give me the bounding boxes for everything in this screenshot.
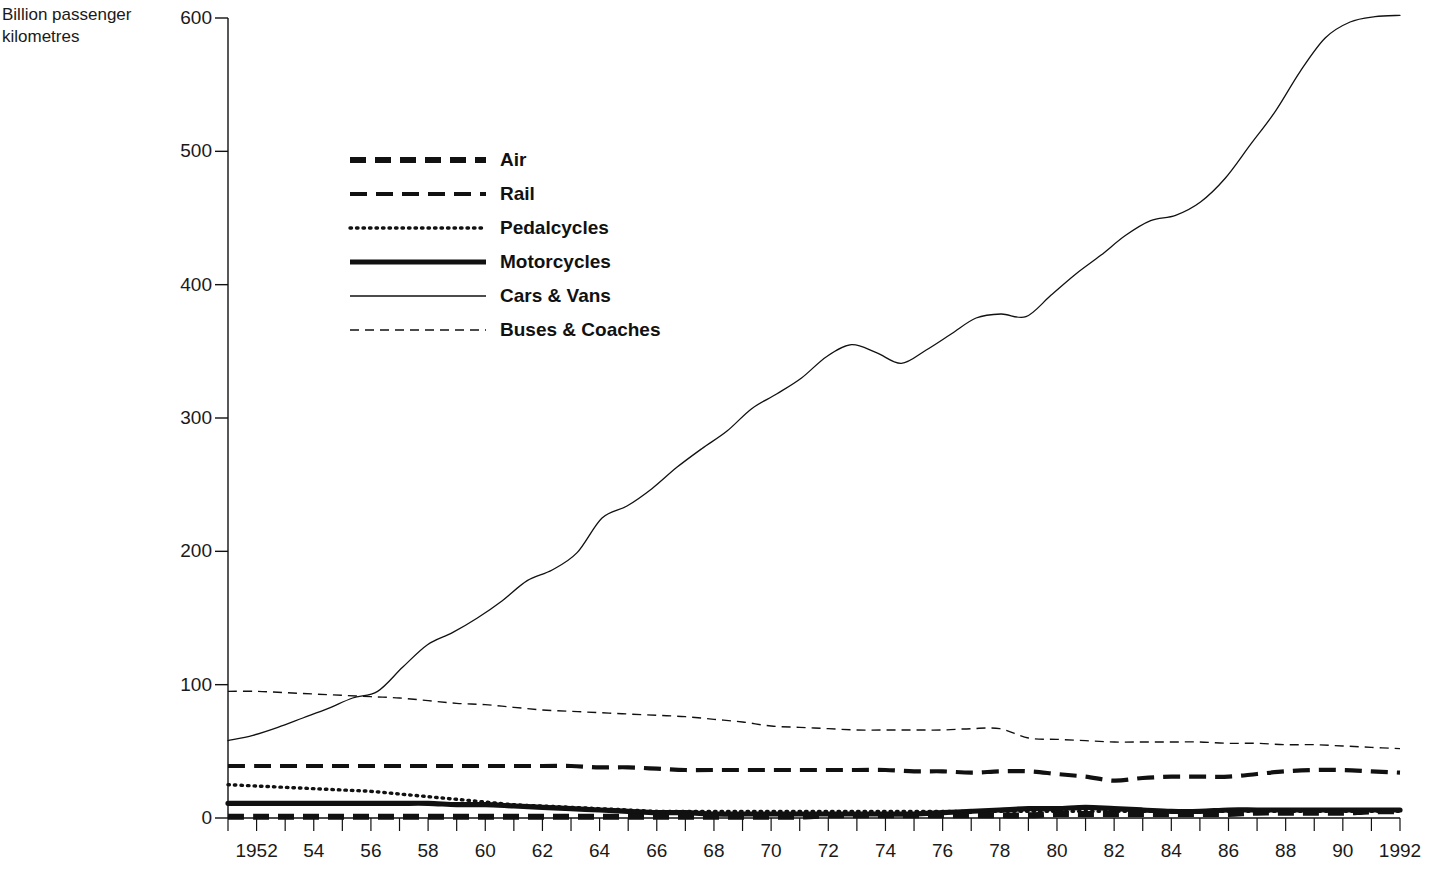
legend-item-cars[interactable]: Cars & Vans — [348, 279, 661, 313]
series-line-buses-coaches — [228, 691, 1400, 748]
legend-label-buses: Buses & Coaches — [500, 319, 661, 341]
x-axis-tick-label: 84 — [1161, 840, 1182, 862]
x-axis-tick-label: 82 — [1104, 840, 1125, 862]
legend-item-rail[interactable]: Rail — [348, 177, 661, 211]
legend-swatch-pedalcycles-icon — [348, 220, 488, 236]
x-axis-tick-label: 1952 — [235, 840, 277, 862]
legend-label-pedalcycles: Pedalcycles — [500, 217, 609, 239]
legend-label-cars: Cars & Vans — [500, 285, 611, 307]
legend-swatch-air-icon — [348, 152, 488, 168]
x-axis-tick-label: 78 — [989, 840, 1010, 862]
x-axis-tick-label: 56 — [360, 840, 381, 862]
legend-item-air[interactable]: Air — [348, 143, 661, 177]
x-axis-tick-label: 70 — [761, 840, 782, 862]
legend-label-motorcycles: Motorcycles — [500, 251, 611, 273]
chart-page: Billion passenger kilometres 01002003004… — [0, 0, 1443, 876]
legend-swatch-motorcycles-icon — [348, 254, 488, 270]
legend-swatch-cars-icon — [348, 288, 488, 304]
x-axis-tick-label: 90 — [1332, 840, 1353, 862]
x-axis-tick-label: 54 — [303, 840, 324, 862]
x-axis-tick-label: 1992 — [1379, 840, 1421, 862]
legend-swatch-rail-icon — [348, 186, 488, 202]
series-line-cars-vans — [228, 15, 1400, 740]
x-axis-tick-labels: 1952545658606264666870727476788082848688… — [0, 840, 1443, 870]
legend-label-air: Air — [500, 149, 526, 171]
x-axis-tick-label: 62 — [532, 840, 553, 862]
x-axis-tick-label: 88 — [1275, 840, 1296, 862]
series-line-pedalcycles — [228, 785, 1400, 812]
x-axis-tick-label: 58 — [418, 840, 439, 862]
x-axis-tick-label: 66 — [646, 840, 667, 862]
series-line-rail — [228, 766, 1400, 781]
legend-item-buses[interactable]: Buses & Coaches — [348, 313, 661, 347]
series-line-motorcycles — [228, 803, 1400, 814]
chart-legend: AirRailPedalcyclesMotorcyclesCars & Vans… — [348, 143, 661, 347]
chart-canvas — [0, 0, 1443, 876]
x-axis-tick-label: 80 — [1046, 840, 1067, 862]
x-axis-tick-label: 76 — [932, 840, 953, 862]
x-axis-tick-label: 86 — [1218, 840, 1239, 862]
legend-swatch-buses-icon — [348, 322, 488, 338]
x-axis-tick-label: 64 — [589, 840, 610, 862]
legend-item-pedalcycles[interactable]: Pedalcycles — [348, 211, 661, 245]
legend-label-rail: Rail — [500, 183, 535, 205]
x-axis-tick-label: 60 — [475, 840, 496, 862]
x-axis-tick-label: 68 — [703, 840, 724, 862]
legend-item-motorcycles[interactable]: Motorcycles — [348, 245, 661, 279]
x-axis-tick-label: 72 — [818, 840, 839, 862]
x-axis-tick-label: 74 — [875, 840, 896, 862]
